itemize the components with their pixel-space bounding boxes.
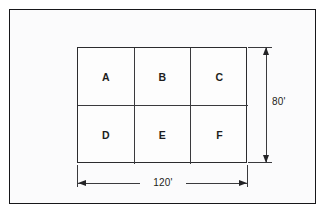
arrow-down-icon (263, 155, 269, 163)
horizontal-dimension-extension-line-right (247, 165, 248, 187)
room-grid: A B C D E F (77, 47, 247, 163)
diagram-frame: A B C D E F 80' (9, 9, 316, 204)
horizontal-dimension-line-left (78, 183, 140, 184)
horizontal-dimension-label: 120' (141, 177, 185, 188)
grid-cell-d: D (78, 106, 135, 164)
grid-cell-label: B (159, 71, 167, 83)
grid-cell-label: F (216, 129, 223, 141)
arrow-left-icon (78, 180, 86, 186)
grid-cell-label: E (159, 129, 166, 141)
grid-cell-label: D (102, 129, 110, 141)
vertical-dimension-line (266, 47, 267, 163)
grid-cell-c: C (191, 48, 248, 106)
grid-cell-e: E (135, 106, 191, 164)
grid-cell-a: A (78, 48, 135, 106)
vertical-dimension-label: 80' (272, 96, 286, 107)
arrow-up-icon (263, 47, 269, 55)
grid-cell-f: F (191, 106, 248, 164)
diagram-canvas: A B C D E F 80' (0, 0, 326, 214)
horizontal-dimension-line-right (186, 183, 247, 184)
grid-cell-label: A (102, 71, 110, 83)
grid-cell-label: C (216, 71, 224, 83)
grid-cell-b: B (135, 48, 191, 106)
arrow-right-icon (239, 180, 247, 186)
